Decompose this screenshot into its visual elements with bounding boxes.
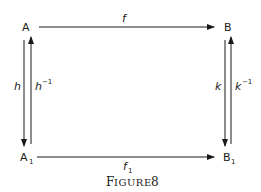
- node-b: B: [224, 21, 232, 34]
- svg-text:8: 8: [151, 175, 159, 189]
- svg-text:IGURE: IGURE: [114, 177, 152, 188]
- label-h-inverse: h −1: [35, 78, 52, 93]
- svg-text:k: k: [235, 80, 242, 93]
- node-a: A: [22, 21, 30, 34]
- svg-text:B: B: [223, 151, 231, 164]
- label-h: h: [14, 80, 21, 93]
- svg-text:h: h: [35, 80, 42, 93]
- node-a1: A 1: [20, 151, 33, 166]
- svg-text:1: 1: [231, 158, 235, 166]
- commutative-diagram: A B A 1 B 1 f f 1 h h −1 k k −1 F IGURE …: [0, 0, 261, 192]
- svg-text:A: A: [20, 151, 28, 164]
- svg-text:1: 1: [29, 158, 33, 166]
- label-f: f: [122, 12, 128, 25]
- label-k: k: [215, 80, 222, 93]
- svg-text:1: 1: [128, 167, 132, 175]
- svg-text:−1: −1: [242, 78, 252, 86]
- svg-text:−1: −1: [42, 78, 52, 86]
- node-b1: B 1: [223, 151, 235, 166]
- label-k-inverse: k −1: [235, 78, 252, 93]
- figure-caption: F IGURE 8: [106, 175, 159, 189]
- label-f1: f 1: [123, 160, 132, 175]
